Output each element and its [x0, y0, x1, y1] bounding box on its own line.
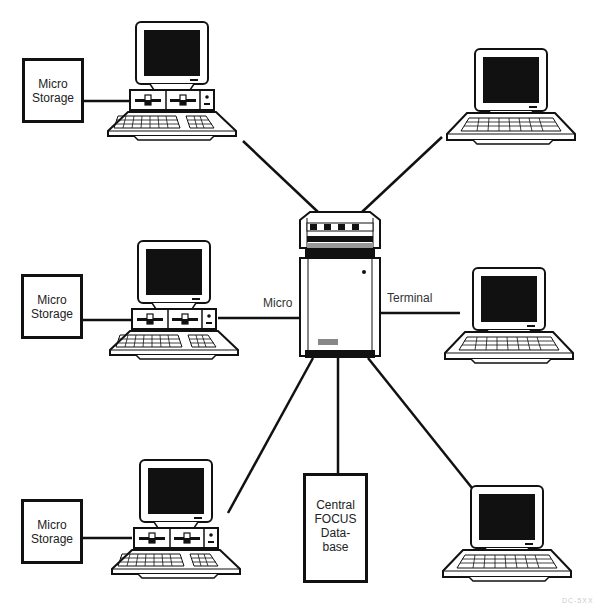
micro-link-label: Micro: [263, 296, 292, 310]
database-label-line1: Central: [315, 498, 357, 512]
storage-label-line2: Storage: [31, 307, 73, 321]
storage-label-line2: Storage: [32, 91, 74, 105]
database-label-line3: Data-: [315, 526, 357, 540]
micro-storage-box-bottom: MicroStorage: [21, 499, 83, 564]
figure-id: DC-5XX: [562, 597, 594, 604]
micro-storage-box-top: MicroStorage: [22, 58, 84, 123]
microcomputer-top-left: [108, 22, 236, 140]
terminal-link-label: Terminal: [387, 291, 432, 305]
storage-label-line2: Storage: [31, 532, 73, 546]
storage-label-line1: Micro: [32, 77, 74, 91]
link-bottom-left: [228, 358, 313, 513]
microcomputer-middle-left: [110, 241, 238, 359]
terminal-top-right: [447, 49, 575, 144]
database-label-line2: FOCUS: [315, 512, 357, 526]
database-label-line4: base: [315, 540, 357, 554]
link-bottom-right: [368, 358, 472, 488]
terminal-middle-right: [445, 268, 573, 363]
storage-label-line1: Micro: [31, 293, 73, 307]
storage-label-line1: Micro: [31, 518, 73, 532]
central-focus-database-box: Central FOCUS Data- base: [303, 473, 368, 583]
microcomputer-bottom-left: [112, 460, 240, 578]
central-host: [300, 212, 380, 358]
link-top-left: [243, 141, 318, 212]
micro-storage-box-middle: MicroStorage: [21, 274, 83, 339]
link-top-right: [362, 137, 442, 212]
terminal-bottom-right: [443, 486, 571, 581]
network-diagram: [0, 0, 600, 606]
